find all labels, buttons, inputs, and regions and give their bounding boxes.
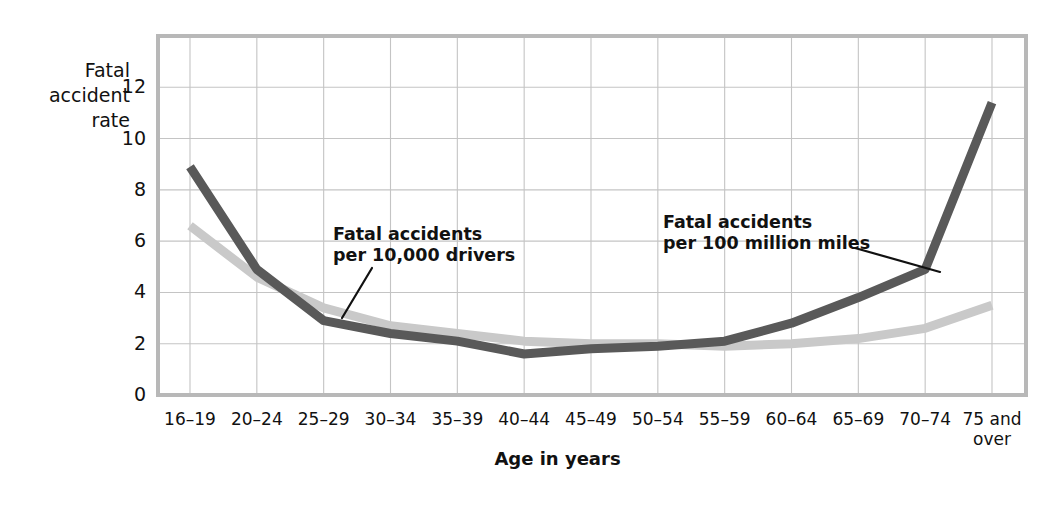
x-axis-tick-20-24: 20–24 <box>220 409 294 429</box>
x-axis-tick-65-69: 65–69 <box>821 409 895 429</box>
annotation-fatal-accidents-per-100-million-miles: Fatal accidents per 100 million miles <box>663 212 870 254</box>
fatal-accident-rate-chart: Fatal accident rate 024681012 16–1920–24… <box>0 0 1059 506</box>
y-axis-tick-4: 4 <box>106 282 146 301</box>
x-axis-tick-45-49: 45–49 <box>554 409 628 429</box>
plot-area <box>0 0 1059 506</box>
x-axis-tick-75-and-over: 75 and over <box>955 409 1029 449</box>
x-axis-tick-25-29: 25–29 <box>287 409 361 429</box>
y-axis-tick-10: 10 <box>106 129 146 148</box>
annotation-fatal-accidents-per-10000-drivers: Fatal accidents per 10,000 drivers <box>333 224 515 266</box>
y-axis-tick-12: 12 <box>106 77 146 96</box>
x-axis-title-row: Age in years <box>0 448 1059 469</box>
x-axis-tick-50-54: 50–54 <box>621 409 695 429</box>
y-axis-tick-8: 8 <box>106 180 146 199</box>
x-axis-tick-70-74: 70–74 <box>888 409 962 429</box>
x-axis-tick-16-19: 16–19 <box>153 409 227 429</box>
y-axis-tick-0: 0 <box>106 385 146 404</box>
x-axis-tick-60-64: 60–64 <box>755 409 829 429</box>
y-axis-tick-2: 2 <box>106 334 146 353</box>
x-axis-tick-30-34: 30–34 <box>354 409 428 429</box>
x-axis-tick-35-39: 35–39 <box>420 409 494 429</box>
x-axis-tick-55-59: 55–59 <box>688 409 762 429</box>
y-axis-tick-6: 6 <box>106 231 146 250</box>
x-axis-title: Age in years <box>494 448 620 469</box>
x-axis-tick-40-44: 40–44 <box>487 409 561 429</box>
